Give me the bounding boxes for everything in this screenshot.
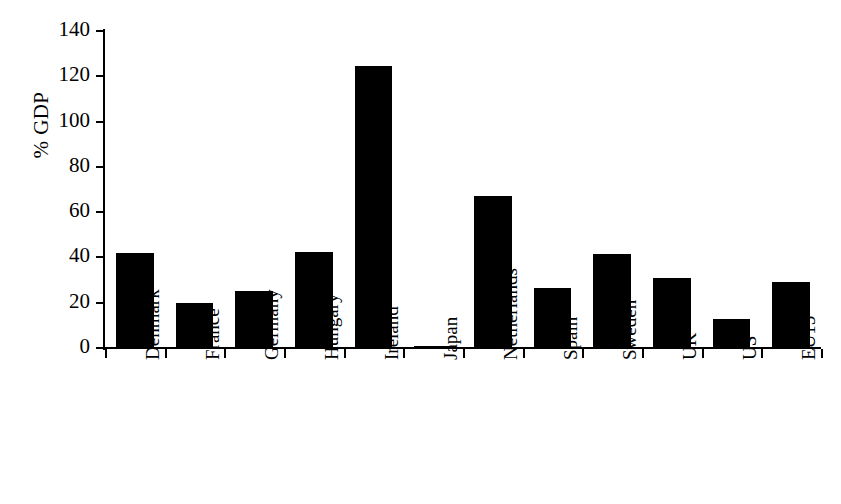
x-axis-label: Hungary <box>322 294 342 360</box>
x-axis-label: Spain <box>561 317 581 360</box>
x-axis-label: Japan <box>441 317 461 360</box>
x-axis-label: US <box>740 336 760 360</box>
x-axis-labels: DenmarkFranceGermanyHungaryIrelandJapanN… <box>0 0 841 504</box>
x-axis-label: UK <box>680 333 700 360</box>
x-axis-label: EU15 <box>799 316 819 360</box>
x-axis-label: Denmark <box>143 289 163 360</box>
bar-chart: % GDP 020406080100120140 DenmarkFranceGe… <box>0 0 841 504</box>
x-axis-label: Germany <box>262 289 282 360</box>
x-axis-label: Sweden <box>620 300 640 360</box>
x-axis-label: Ireland <box>382 306 402 360</box>
x-axis-label: France <box>203 308 223 360</box>
x-axis-label: Netherlands <box>501 268 521 360</box>
